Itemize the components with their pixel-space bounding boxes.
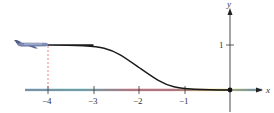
y-axis-arrow-icon — [228, 8, 233, 15]
airplane-icon — [14, 40, 49, 48]
x-axis-label: x — [265, 85, 270, 95]
y-tick-label-1: 1 — [219, 40, 224, 50]
x-axis-arrow-icon — [256, 88, 263, 93]
glide-path-diagram: x y 1 −4 −3 −2 −1 — [0, 0, 274, 113]
glide-path-curve — [48, 45, 230, 90]
y-axis-label: y — [226, 0, 231, 9]
x-tick-label-neg4: −4 — [42, 96, 52, 106]
x-tick-label-neg3: −3 — [88, 96, 98, 106]
origin-point — [228, 88, 233, 93]
x-tick-label-neg1: −1 — [179, 96, 189, 106]
x-tick-label-neg2: −2 — [133, 96, 143, 106]
